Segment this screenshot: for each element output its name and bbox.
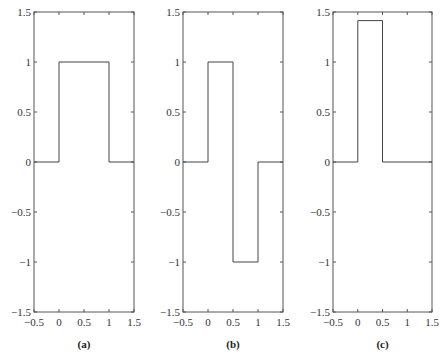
x-tick-label: 0.5 [77,316,91,328]
x-tick-label: 0 [355,316,361,328]
x-tick-label: 1 [255,316,261,328]
y-tick-label: 1 [325,56,331,68]
panel-caption: (a) [78,338,91,351]
figure: −0.500.511.5−1.5−1−0.500.511.5(a)−0.500.… [0,0,446,358]
x-tick-label: 0.5 [376,316,390,328]
y-tick-label: 0.5 [316,106,330,118]
signal-line [333,21,432,162]
y-tick-label: 0.5 [166,106,180,118]
y-tick-label: 1 [26,56,32,68]
x-tick-label: 1.5 [276,316,290,328]
y-tick-label: 0 [175,156,181,168]
panel-c: −0.500.511.5−1.5−1−0.500.511.5(c) [310,6,439,351]
y-tick-label: −1.5 [310,306,330,318]
signal-line [183,62,283,262]
y-tick-label: 0 [325,156,331,168]
panel-caption: (c) [376,338,389,351]
y-tick-label: 1.5 [316,6,330,18]
x-tick-label: 1.5 [425,316,439,328]
y-tick-label: 0.5 [17,106,31,118]
signal-line [34,62,134,162]
x-tick-label: 0.5 [226,316,240,328]
y-tick-label: 1.5 [166,6,180,18]
x-tick-label: 0 [56,316,62,328]
y-tick-label: 0 [26,156,32,168]
x-tick-label: 1 [405,316,411,328]
y-tick-label: −1 [168,256,180,268]
panel-a: −0.500.511.5−1.5−1−0.500.511.5(a) [11,6,141,351]
y-tick-label: −1 [19,256,31,268]
y-tick-label: −0.5 [160,206,180,218]
panel-b: −0.500.511.5−1.5−1−0.500.511.5(b) [160,6,290,351]
x-tick-label: 1.5 [127,316,141,328]
x-tick-label: 0 [205,316,211,328]
y-tick-label: −0.5 [11,206,31,218]
y-tick-label: 1 [175,56,181,68]
panel-caption: (b) [226,338,240,351]
y-tick-label: 1.5 [17,6,31,18]
y-tick-label: −1.5 [160,306,180,318]
y-tick-label: −1.5 [11,306,31,318]
y-tick-label: −1 [318,256,330,268]
x-tick-label: 1 [106,316,112,328]
y-tick-label: −0.5 [310,206,330,218]
